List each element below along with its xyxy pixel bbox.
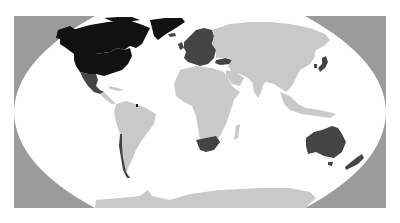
world-map: [0, 0, 400, 223]
region-south-korea[interactable]: [314, 64, 317, 68]
region-french-guiana[interactable]: [136, 104, 138, 107]
